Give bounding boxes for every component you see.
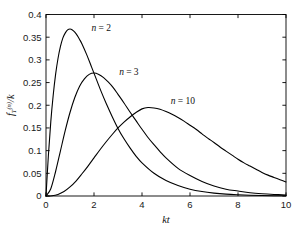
y-tick-label: 0.15	[23, 122, 42, 133]
y-tick-label: 0.3	[28, 54, 41, 65]
chart-canvas: 024681000.050.10.150.20.250.30.350.4 n= …	[0, 0, 302, 235]
curve-annotations: n= 2n= 3n= 10	[92, 23, 196, 106]
x-tick-label: 8	[235, 199, 240, 210]
y-tick-label: 0.2	[28, 100, 41, 111]
tick-labels: 024681000.050.10.150.20.250.30.350.4	[23, 9, 291, 210]
y-tick-label: 0.25	[23, 77, 42, 88]
curve-n-3	[46, 73, 286, 196]
annotation-n-2: n= 2	[92, 23, 112, 33]
axes-frame	[46, 15, 286, 197]
x-axis-label: kt	[162, 214, 171, 225]
x-tick-label: 10	[281, 199, 292, 210]
curve-n-2	[46, 29, 286, 196]
x-tick-label: 0	[43, 199, 48, 210]
axis-ticks	[46, 15, 286, 197]
y-tick-label: 0.1	[28, 145, 41, 156]
x-tick-label: 2	[91, 199, 96, 210]
plot-box	[46, 15, 286, 197]
x-tick-label: 6	[187, 199, 192, 210]
y-axis-label: fT(n)/k	[5, 94, 17, 116]
figure-container: 024681000.050.10.150.20.250.30.350.4 n= …	[0, 0, 302, 235]
y-tick-label: 0.35	[23, 32, 42, 43]
annotation-n-10: n= 10	[171, 96, 195, 106]
data-curves	[46, 29, 286, 196]
annotation-n-3: n= 3	[119, 67, 139, 77]
axis-titles: ktfT(n)/k	[5, 94, 171, 225]
y-tick-label: 0.4	[28, 9, 41, 20]
y-tick-label: 0.05	[23, 168, 42, 179]
x-tick-label: 4	[139, 199, 144, 210]
y-tick-label: 0	[36, 190, 41, 201]
curve-n-10	[46, 107, 286, 196]
